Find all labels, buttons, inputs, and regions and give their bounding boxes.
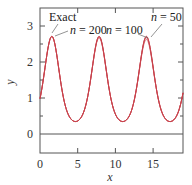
x-axis-label: x <box>106 170 113 184</box>
y-axis-label: y <box>3 79 17 86</box>
x-tick-label: 5 <box>75 157 81 171</box>
x-tick-label: 15 <box>147 157 159 171</box>
y-tick-label: 2 <box>27 55 33 69</box>
curve-exact <box>40 36 183 121</box>
x-tick-label: 0 <box>37 157 43 171</box>
curve-n200 <box>40 36 183 121</box>
annotation-leader <box>52 24 58 33</box>
chart: 3 2 1 0 0 5 10 15 x y Exact n = 200 n = … <box>0 0 192 185</box>
annotation-exact: Exact <box>49 10 77 24</box>
annotation-n200: n = 200 <box>70 23 107 37</box>
y-tick-label: 0 <box>27 127 33 141</box>
annotation-leader <box>55 31 68 36</box>
curve-n100 <box>40 36 183 121</box>
annotation-n50: n = 50 <box>151 10 182 24</box>
y-tick-label: 3 <box>27 19 33 33</box>
x-tick-label: 10 <box>109 157 121 171</box>
annotation-n100: n = 100 <box>106 23 143 37</box>
curve-n50 <box>40 37 183 122</box>
y-tick-label: 1 <box>27 91 33 105</box>
curves <box>40 36 183 121</box>
annotation-leader <box>151 24 162 37</box>
